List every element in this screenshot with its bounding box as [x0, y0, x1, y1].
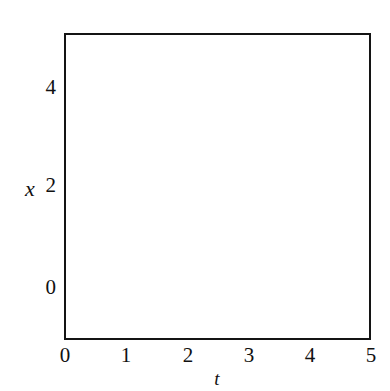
x-tick-label-2: 2 [175, 345, 201, 366]
y-axis-title: x [18, 176, 42, 202]
x-tick-label-5: 5 [358, 345, 384, 366]
y-tick-label-0: 0 [30, 277, 56, 298]
y-tick-label-4: 4 [30, 77, 56, 98]
x-axis-title: t [205, 368, 229, 390]
x-tick-label-4: 4 [297, 345, 323, 366]
x-tick-label-0: 0 [52, 345, 78, 366]
plot-frame [64, 33, 371, 340]
x-tick-label-1: 1 [113, 345, 139, 366]
x-tick-label-3: 3 [236, 345, 262, 366]
chart-root: 0 1 2 3 4 5 0 2 4 t x [0, 0, 390, 391]
